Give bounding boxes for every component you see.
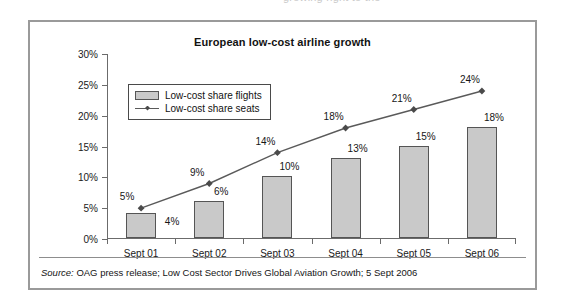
y-tick-label: 5%: [84, 203, 98, 214]
y-tick-label: 30%: [78, 49, 98, 60]
seats-marker: [138, 205, 145, 212]
chart-legend: Low-cost share flights Low-cost share se…: [128, 84, 271, 120]
legend-line-marker-icon: [135, 104, 159, 113]
y-tick-label: 10%: [78, 172, 98, 183]
plot-area: 0%5%10%15%20%25%30% Sept 01Sept 02Sept 0…: [107, 54, 516, 239]
cropped-header-label: growing right to the: [283, 0, 381, 3]
source-note: Source: OAG press release; Low Cost Sect…: [41, 267, 417, 278]
line-value-label: 21%: [392, 93, 412, 104]
source-divider: [39, 257, 526, 258]
legend-item-flights: Low-cost share flights: [135, 89, 262, 102]
y-tick-label: 0%: [84, 234, 98, 245]
seats-marker: [479, 88, 486, 95]
y-tick-label: 20%: [78, 110, 98, 121]
legend-line-label: Low-cost share seats: [165, 103, 260, 114]
seats-marker: [206, 180, 213, 187]
line-value-label: 9%: [190, 167, 204, 178]
seats-marker: [342, 125, 349, 132]
source-text: OAG press release; Low Cost Sector Drive…: [74, 267, 418, 278]
line-value-label: 18%: [324, 111, 344, 122]
line-value-label: 5%: [120, 191, 134, 202]
line-value-label: 24%: [460, 74, 480, 85]
y-tick-label: 25%: [78, 79, 98, 90]
seats-marker: [410, 106, 417, 113]
legend-bar-swatch-icon: [135, 91, 159, 100]
line-value-label: 14%: [255, 136, 275, 147]
legend-bar-label: Low-cost share flights: [165, 90, 262, 101]
legend-item-seats: Low-cost share seats: [135, 102, 262, 115]
figure-frame: European low-cost airline growth 0%5%10%…: [28, 20, 537, 290]
cropped-header-text: growing right to the: [0, 0, 566, 14]
chart-title: European low-cost airline growth: [30, 36, 535, 48]
seats-marker: [274, 149, 281, 156]
line-series: [107, 54, 516, 239]
source-prefix: Source:: [41, 267, 74, 278]
y-tick-label: 15%: [78, 141, 98, 152]
